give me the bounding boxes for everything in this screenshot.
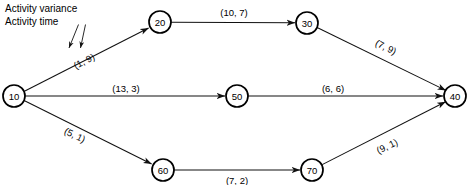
caption-pointers-group [69, 25, 86, 49]
edge-label-10-50: (13, 3) [112, 83, 139, 94]
edge-30-40 [317, 28, 446, 91]
node-60[interactable]: 60 [152, 159, 174, 181]
node-40-label: 40 [450, 91, 461, 102]
caption-activity-variance: Activity variance [5, 3, 78, 14]
edge-label-70-40: (9, 1) [375, 136, 400, 156]
pointer-activity-variance-icon [69, 25, 79, 49]
edge-10-60 [25, 101, 152, 164]
node-20-label: 20 [155, 17, 166, 28]
edge-20-30 [171, 22, 295, 23]
node-50[interactable]: 50 [226, 85, 248, 107]
edge-label-30-40: (7, 9) [374, 37, 399, 57]
node-70[interactable]: 70 [301, 159, 323, 181]
edge-label-10-60: (5, 1) [63, 125, 88, 145]
caption-activity-time: Activity time [5, 16, 59, 27]
node-70-label: 70 [307, 165, 318, 176]
node-40[interactable]: 40 [444, 85, 466, 107]
caption-block: Activity variance Activity time [5, 3, 78, 27]
network-canvas: Activity variance Activity time (1, 9) (… [0, 0, 470, 185]
node-60-label: 60 [158, 165, 169, 176]
node-50-label: 50 [232, 91, 243, 102]
node-20[interactable]: 20 [149, 11, 171, 33]
edge-label-60-70: (7, 2) [226, 175, 248, 186]
node-30[interactable]: 30 [296, 12, 318, 34]
edge-70-40 [322, 102, 445, 165]
node-10[interactable]: 10 [3, 85, 25, 107]
edge-label-50-40: (6, 6) [322, 83, 344, 94]
activity-network-diagram: Activity variance Activity time (1, 9) (… [0, 0, 470, 185]
edge-label-20-30: (10, 7) [220, 7, 247, 18]
pointer-activity-time-icon [81, 25, 86, 49]
edge-label-10-20: (1, 9) [72, 51, 97, 71]
node-30-label: 30 [302, 18, 313, 29]
node-10-label: 10 [9, 91, 20, 102]
